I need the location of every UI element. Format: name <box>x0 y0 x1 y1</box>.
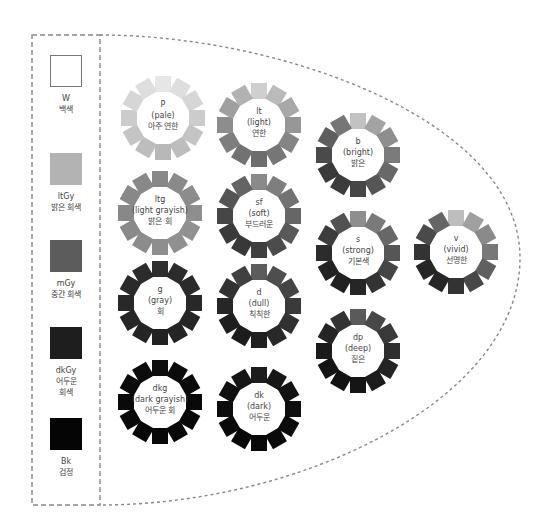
tone-name-ko: 부드러운 <box>224 219 294 230</box>
tone-name-ko: 어두운 회 <box>125 405 195 416</box>
achromatic-ltgy: ltGy 밝은 회색 <box>32 153 100 213</box>
tone-name-ko: 어두운 <box>224 412 294 423</box>
tone-label: dk(dark)어두운 <box>224 390 294 423</box>
hue-square <box>251 151 267 167</box>
swatch-medium-gray <box>50 240 82 272</box>
hue-square <box>448 210 464 226</box>
hue-square <box>251 242 267 258</box>
swatch-code: ltGy <box>32 191 100 202</box>
tone-code: sf <box>224 197 294 208</box>
tone-label: sf(soft)부드러운 <box>224 197 294 230</box>
tone-label: g(gray)회 <box>125 284 195 317</box>
tone-name-en: (light grayish) <box>125 205 195 216</box>
swatch-label: dkGy 어두운 회색 <box>32 365 100 398</box>
tone-name-ko: 짙은 <box>323 354 393 365</box>
swatch-name-ko: 밝은 회색 <box>32 202 100 213</box>
hue-square <box>152 428 168 444</box>
tone-label: v(vivid)선명한 <box>421 233 491 266</box>
hue-square <box>251 367 267 383</box>
tone-name-en: (gray) <box>125 295 195 306</box>
tone-code: dp <box>323 332 393 343</box>
hue-square <box>152 261 168 277</box>
tone-code: lt <box>224 106 294 117</box>
hue-square <box>350 181 366 197</box>
tone-name-ko: 선명한 <box>421 255 491 266</box>
swatch-name-ko: 백색 <box>32 104 100 115</box>
hue-square <box>251 174 267 190</box>
tone-code: d <box>224 287 294 298</box>
hue-square <box>251 435 267 451</box>
tone-name-en: (vivid) <box>421 244 491 255</box>
tone-label: ltg(light grayish)밝은 회 <box>125 194 195 227</box>
hue-square <box>152 360 168 376</box>
hue-square <box>350 279 366 295</box>
tone-code: v <box>421 233 491 244</box>
tone-code: P <box>128 99 198 110</box>
hue-square <box>350 211 366 227</box>
hue-square <box>350 309 366 325</box>
tone-ring-strong: s(strong)기본색 <box>315 210 401 296</box>
tone-label: d(dull)칙칙한 <box>224 287 294 320</box>
achromatic-mgy: mGy 중간 회색 <box>32 240 100 300</box>
achromatic-dkgy: dkGy 어두운 회색 <box>32 327 100 398</box>
hue-square <box>251 83 267 99</box>
tone-label: s(strong)기본색 <box>323 234 393 267</box>
tone-ring-pale: P(pale)아주 연한 <box>120 75 206 161</box>
tone-ring-dark-grayish: dkg(dark grayish)어두운 회 <box>117 359 203 445</box>
tone-ring-gray: g(gray)회 <box>117 260 203 346</box>
swatch-black <box>50 418 82 450</box>
swatch-label: ltGy 밝은 회색 <box>32 191 100 213</box>
tone-code: dk <box>224 390 294 401</box>
tone-name-ko: 밝은 회 <box>125 216 195 227</box>
swatch-code: dkGy <box>32 365 100 376</box>
swatch-dark-gray <box>50 327 82 359</box>
tone-name-ko: 밝은 <box>323 158 393 169</box>
swatch-name-ko: 검정 <box>32 467 100 478</box>
hue-square <box>350 113 366 129</box>
tone-name-ko: 칙칙한 <box>224 309 294 320</box>
swatch-name-ko: 어두운 <box>32 376 100 387</box>
tone-ring-vivid: v(vivid)선명한 <box>413 209 499 295</box>
tone-name-en: (dull) <box>224 298 294 309</box>
hue-square <box>448 278 464 294</box>
tone-code: b <box>323 136 393 147</box>
tone-ring-deep: dp(deep)짙은 <box>315 308 401 394</box>
hue-square <box>251 264 267 280</box>
tone-code: ltg <box>125 194 195 205</box>
tone-label: lt(light)연한 <box>224 106 294 139</box>
tone-name-ko: 회 <box>125 306 195 317</box>
tone-name-ko: 아주 연한 <box>128 121 198 132</box>
tone-name-en: (dark) <box>224 401 294 412</box>
swatch-label: Bk 검정 <box>32 456 100 478</box>
swatch-light-gray <box>50 153 82 185</box>
tone-label: P(pale)아주 연한 <box>128 99 198 132</box>
tone-name-en: (light) <box>224 117 294 128</box>
tone-code: dkg <box>125 383 195 394</box>
achromatic-bk: Bk 검정 <box>32 418 100 478</box>
swatch-name-ko-line2: 회색 <box>32 387 100 398</box>
hue-square <box>155 144 171 160</box>
swatch-label: W 백색 <box>32 93 100 115</box>
tone-label: dp(deep)짙은 <box>323 332 393 365</box>
swatch-white <box>50 55 82 87</box>
hue-square <box>152 171 168 187</box>
swatch-label: mGy 중간 회색 <box>32 278 100 300</box>
hue-square <box>350 377 366 393</box>
tone-name-en: (soft) <box>224 208 294 219</box>
tone-code: g <box>125 284 195 295</box>
tone-name-en: (pale) <box>128 110 198 121</box>
tone-name-en: (deep) <box>323 343 393 354</box>
tone-ring-light: lt(light)연한 <box>216 82 302 168</box>
tone-name-en: (bright) <box>323 147 393 158</box>
tone-ring-light-grayish: ltg(light grayish)밝은 회 <box>117 170 203 256</box>
swatch-code: Bk <box>32 456 100 467</box>
tone-code: s <box>323 234 393 245</box>
tone-ring-bright: b(bright)밝은 <box>315 112 401 198</box>
swatch-code: W <box>32 93 100 104</box>
hue-square <box>152 329 168 345</box>
tone-label: b(bright)밝은 <box>323 136 393 169</box>
hue-square <box>152 239 168 255</box>
tone-label: dkg(dark grayish)어두운 회 <box>125 383 195 416</box>
tone-name-en: (dark grayish) <box>125 394 195 405</box>
swatch-code: mGy <box>32 278 100 289</box>
